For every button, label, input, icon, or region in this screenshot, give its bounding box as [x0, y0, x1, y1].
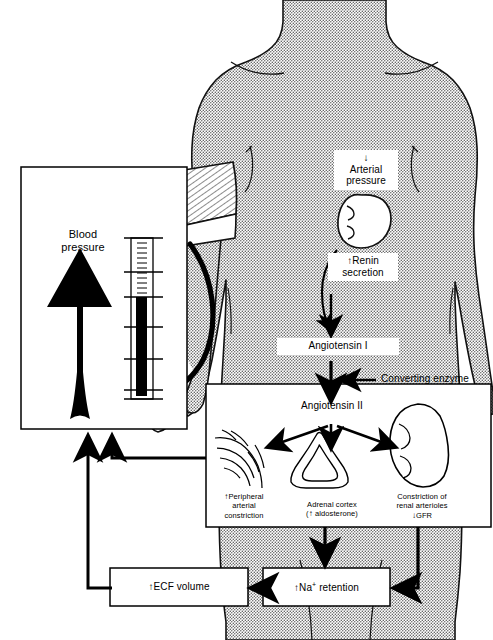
- diagram-canvas: Blood pressure ↓ Arterial pressure ↑Reni…: [0, 0, 493, 640]
- arterial-pressure-arrow: ↓: [363, 153, 368, 163]
- arterial-pressure-line2: pressure: [340, 175, 392, 187]
- renin-secretion-node: ↑Renin secretion: [328, 253, 398, 281]
- converting-enzyme-label: Converting enzyme: [381, 373, 469, 385]
- arrow-ecf-to-bp: [88, 437, 112, 588]
- renin-secretion-line1: ↑Renin: [334, 255, 392, 267]
- ecf-volume-label: ↑ECF volume: [112, 581, 246, 593]
- retention-word: retention: [319, 582, 359, 593]
- adrenal-cortex-line1: Adrenal cortex: [287, 500, 377, 509]
- peripheral-constriction-line3: constriction: [208, 511, 280, 520]
- peripheral-constriction-label: ↑Peripheral arterial constriction: [208, 492, 280, 520]
- renin-secretion-word: Renin: [352, 255, 379, 266]
- arterial-pressure-node: ↓ Arterial pressure: [334, 150, 398, 190]
- peripheral-constriction-line2: arterial: [208, 501, 280, 510]
- na-symbol: Na: [299, 582, 312, 593]
- renal-constriction-label: Constriction of renal arterioles ↓GFR: [382, 492, 462, 520]
- peripheral-constriction-line1: ↑Peripheral: [208, 492, 280, 501]
- gfr-word: GFR: [416, 511, 432, 520]
- arrow-gfr-to-na: [395, 527, 418, 588]
- flow-layer: [0, 0, 493, 640]
- renal-constriction-line3: ↓GFR: [382, 511, 462, 520]
- na-retention-label: ↑Na+ retention: [265, 581, 388, 594]
- adrenal-cortex-aldosterone: aldosterone): [313, 509, 358, 518]
- peripheral-constriction-word1: Peripheral: [228, 492, 263, 501]
- blood-pressure-label-line1: Blood: [38, 228, 128, 241]
- adrenal-cortex-label: Adrenal cortex (↑ aldosterone): [287, 500, 377, 519]
- na-superscript: +: [312, 581, 316, 588]
- ecf-volume-text: ECF volume: [154, 581, 210, 592]
- blood-pressure-label: Blood pressure: [38, 228, 128, 253]
- renal-constriction-line2: renal arterioles: [382, 501, 462, 510]
- arterial-pressure-line1: Arterial: [340, 164, 392, 176]
- arrow-peripheral-to-bp: [112, 437, 206, 458]
- blood-pressure-label-line2: pressure: [38, 241, 128, 254]
- renal-constriction-line1: Constriction of: [382, 492, 462, 501]
- adrenal-cortex-line2: (↑ aldosterone): [287, 509, 377, 518]
- renin-secretion-line2: secretion: [334, 267, 392, 279]
- angiotensin-2-heading: Angiotensin II: [286, 400, 378, 412]
- angiotensin-1-node: Angiotensin I: [277, 338, 399, 355]
